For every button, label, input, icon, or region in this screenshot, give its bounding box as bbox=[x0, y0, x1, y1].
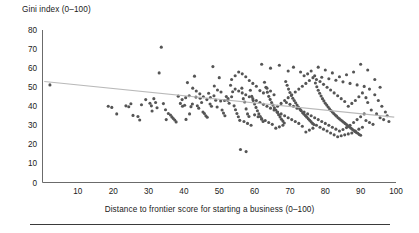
data-point bbox=[313, 116, 316, 119]
data-point bbox=[271, 123, 274, 126]
data-point bbox=[245, 150, 248, 153]
data-point bbox=[237, 89, 240, 92]
data-point bbox=[371, 123, 374, 126]
data-point bbox=[154, 101, 157, 104]
data-point bbox=[387, 120, 390, 123]
data-point bbox=[162, 102, 165, 105]
data-point bbox=[364, 119, 367, 122]
data-point bbox=[230, 95, 233, 98]
data-point bbox=[310, 69, 313, 72]
data-point bbox=[294, 120, 297, 123]
data-point bbox=[257, 115, 260, 118]
data-point bbox=[304, 82, 307, 85]
data-point bbox=[281, 124, 284, 127]
data-point bbox=[373, 93, 376, 96]
data-point bbox=[234, 88, 237, 91]
data-point bbox=[322, 83, 325, 86]
data-point bbox=[364, 96, 367, 99]
data-point bbox=[290, 93, 293, 96]
data-point bbox=[234, 108, 237, 111]
data-point bbox=[247, 115, 250, 118]
data-point bbox=[314, 81, 317, 84]
x-tick-40: 40 bbox=[179, 187, 189, 196]
data-point bbox=[186, 81, 189, 84]
x-tick-70: 70 bbox=[285, 187, 295, 196]
data-point bbox=[274, 127, 277, 130]
data-point bbox=[242, 120, 245, 123]
data-point bbox=[175, 120, 178, 123]
data-point bbox=[350, 102, 353, 105]
data-point bbox=[334, 79, 337, 82]
data-point bbox=[264, 119, 267, 122]
data-point bbox=[269, 89, 272, 92]
data-point bbox=[359, 115, 362, 118]
data-point bbox=[287, 88, 290, 91]
data-point bbox=[276, 110, 279, 113]
data-point bbox=[260, 63, 263, 66]
figure-bottom-rule bbox=[30, 224, 390, 225]
data-point bbox=[318, 126, 321, 129]
data-point bbox=[244, 75, 247, 78]
data-point bbox=[283, 114, 286, 117]
x-tick-80: 80 bbox=[321, 187, 331, 196]
data-point bbox=[331, 71, 334, 74]
data-point bbox=[373, 78, 376, 81]
data-point bbox=[329, 89, 332, 92]
data-point bbox=[349, 82, 352, 85]
data-point bbox=[354, 129, 357, 132]
data-point bbox=[356, 83, 359, 86]
data-point bbox=[379, 116, 382, 119]
data-point bbox=[280, 112, 283, 115]
data-point bbox=[333, 91, 336, 94]
data-point bbox=[237, 115, 240, 118]
data-point bbox=[368, 88, 371, 91]
data-point bbox=[357, 128, 360, 131]
data-point bbox=[290, 118, 293, 121]
data-point bbox=[352, 121, 355, 124]
data-point bbox=[336, 94, 339, 97]
data-point bbox=[340, 97, 343, 100]
data-point bbox=[189, 105, 192, 108]
data-point bbox=[338, 129, 341, 132]
data-point bbox=[272, 93, 275, 96]
data-point bbox=[241, 91, 244, 94]
data-point bbox=[164, 108, 167, 111]
data-point bbox=[363, 85, 366, 88]
data-point bbox=[240, 87, 243, 90]
data-point bbox=[206, 116, 209, 119]
data-point bbox=[265, 87, 268, 90]
data-point bbox=[292, 66, 295, 69]
data-point bbox=[327, 124, 330, 127]
data-point bbox=[254, 106, 257, 109]
data-point bbox=[193, 75, 196, 78]
x-tick-20: 20 bbox=[109, 187, 119, 196]
data-point bbox=[248, 79, 251, 82]
data-point bbox=[350, 131, 353, 134]
data-point bbox=[184, 96, 187, 99]
scatter-plot-figure: Gini index (0–100) 01020304050607080 102… bbox=[0, 0, 419, 233]
data-point bbox=[131, 114, 134, 117]
data-point bbox=[216, 89, 219, 92]
data-point bbox=[107, 105, 110, 108]
data-point bbox=[235, 112, 238, 115]
data-point bbox=[256, 109, 259, 112]
data-point bbox=[336, 135, 339, 138]
data-point bbox=[317, 66, 320, 69]
data-point bbox=[382, 118, 385, 121]
data-point bbox=[359, 134, 362, 137]
data-point bbox=[317, 118, 320, 121]
data-point bbox=[165, 118, 168, 121]
data-point bbox=[320, 94, 323, 97]
data-point bbox=[287, 69, 290, 72]
data-point bbox=[136, 115, 139, 118]
data-point bbox=[357, 95, 360, 98]
data-point bbox=[244, 93, 247, 96]
data-point bbox=[151, 109, 154, 112]
x-tick-30: 30 bbox=[144, 187, 154, 196]
data-point bbox=[248, 95, 251, 98]
data-point bbox=[280, 102, 283, 105]
data-point bbox=[299, 70, 302, 73]
data-point bbox=[269, 98, 272, 101]
data-point bbox=[246, 122, 249, 125]
data-point bbox=[129, 102, 132, 105]
